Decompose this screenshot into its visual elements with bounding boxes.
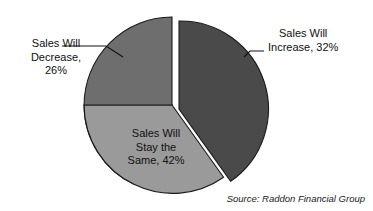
slice-label-decrease-line2: Decrease, [8, 51, 104, 65]
slice-label-increase-line1: Sales Will [268, 27, 338, 41]
slice-label-decrease: Sales Will Decrease, 26% [8, 37, 104, 78]
slice-label-decrease-line3: 26% [8, 64, 104, 78]
slice-label-increase: Sales Will Increase, 32% [268, 27, 338, 54]
slice-label-same-line2: Stay the [104, 141, 208, 155]
slice-label-same-line1: Sales Will [104, 127, 208, 141]
slice-label-stay-the-same: Sales Will Stay the Same, 42% [104, 127, 208, 168]
slice-label-increase-line2: Increase, 32% [268, 41, 338, 55]
slice-label-same-line3: Same, 42% [104, 154, 208, 168]
slice-label-decrease-line1: Sales Will [8, 37, 104, 51]
pie-chart-figure: Sales Will Increase, 32% Sales Will Decr… [0, 0, 373, 211]
source-credit: Source: Raddon Financial Group [227, 193, 365, 204]
